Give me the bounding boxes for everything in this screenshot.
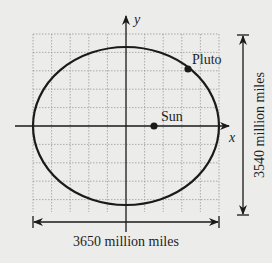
height-label: 3540 million miles <box>252 72 267 178</box>
x-axis-label: x <box>228 130 236 145</box>
orbit-diagram: x y Sun Pluto 3650 million miles 3540 mi… <box>0 0 272 263</box>
pluto-label: Pluto <box>192 52 222 67</box>
width-label: 3650 million miles <box>73 234 179 249</box>
vertical-dimension <box>237 35 249 215</box>
y-axis-label: y <box>132 12 141 27</box>
sun-label: Sun <box>161 109 183 124</box>
pluto-dot <box>184 65 191 72</box>
sun-dot <box>150 122 157 129</box>
